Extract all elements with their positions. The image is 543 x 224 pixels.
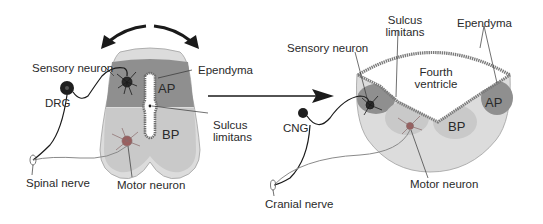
label-basal-plate: BP — [448, 121, 465, 133]
label-sensory-neuron: Sensory neuron — [287, 42, 368, 54]
label-sulcus-limitans-2: limitans — [213, 131, 252, 143]
neural-tube-diagram: Sensory neuron Ependyma AP BP DRG Sulcus… — [0, 0, 543, 224]
label-sensory-neuron: Sensory neuron — [32, 62, 113, 74]
opening-arrow-icon — [108, 26, 192, 42]
label-fourth-ventricle-2: ventricle — [410, 78, 462, 90]
label-sulcus-limitans-2: limitans — [385, 26, 425, 38]
label-cng: CNG — [283, 122, 309, 134]
label-motor-neuron: Motor neuron — [117, 179, 185, 191]
label-drg: DRG — [45, 97, 71, 109]
spinal-cord — [100, 48, 200, 179]
label-sulcus-limitans-1: Sulcus — [213, 119, 248, 131]
label-alar-plate: AP — [485, 97, 502, 109]
label-alar-plate: AP — [158, 83, 175, 95]
label-cranial-nerve: Cranial nerve — [265, 198, 333, 210]
label-motor-neuron: Motor neuron — [410, 178, 478, 190]
cng-ganglion — [298, 108, 308, 118]
label-fourth-ventricle-1: Fourth — [410, 66, 462, 78]
label-sulcus-limitans-1: Sulcus — [385, 14, 425, 26]
label-spinal-nerve: Spinal nerve — [26, 177, 90, 189]
label-basal-plate: BP — [162, 129, 179, 141]
label-ependyma: Ependyma — [457, 17, 512, 29]
label-ependyma: Ependyma — [198, 64, 253, 76]
diagram-artwork — [0, 0, 543, 224]
